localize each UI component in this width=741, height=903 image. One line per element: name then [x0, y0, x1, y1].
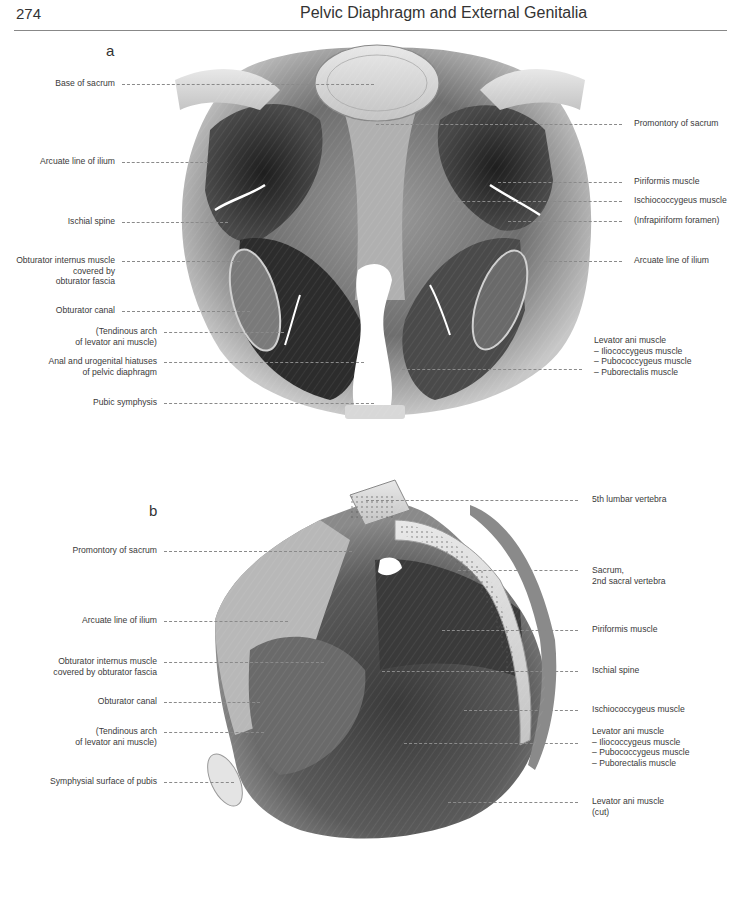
- leader-line: [382, 671, 578, 672]
- leader-line: [164, 362, 364, 363]
- figure-b-letter: b: [149, 502, 157, 519]
- leader-line: [122, 261, 240, 262]
- leader-line: [164, 403, 374, 404]
- label-obturator-internus-b: Obturator internus muscle covered by obt…: [53, 656, 157, 677]
- label-arcuate-line-of-ilium-a-right: Arcuate line of ilium: [634, 255, 709, 266]
- leader-line: [376, 124, 622, 125]
- leader-line: [164, 621, 288, 622]
- label-promontory-of-sacrum-a: Promontory of sacrum: [634, 118, 719, 129]
- label-tendinous-arch-a: (Tendinous arch of levator ani muscle): [75, 326, 157, 347]
- leader-line: [164, 332, 284, 333]
- label-pubic-symphysis: Pubic symphysis: [93, 397, 157, 408]
- leader-line: [164, 732, 264, 733]
- leader-line: [458, 570, 578, 571]
- leader-line: [122, 222, 228, 223]
- leader-line: [164, 782, 234, 783]
- leader-line: [122, 84, 374, 85]
- label-ischiococcygeus-b: Ischiococcygeus muscle: [592, 704, 685, 715]
- label-anal-urogenital-hiatuses: Anal and urogenital hiatuses of pelvic d…: [49, 356, 157, 377]
- label-ischial-spine-a: Ischial spine: [68, 216, 115, 227]
- label-piriformis-a: Piriformis muscle: [634, 176, 699, 187]
- label-ischiococcygeus-a: Ischiococcygeus muscle: [634, 195, 727, 206]
- leader-line: [498, 182, 622, 183]
- label-5th-lumbar-vertebra: 5th lumbar vertebra: [592, 494, 667, 505]
- label-obturator-canal-b: Obturator canal: [98, 696, 157, 707]
- figure-a-letter: a: [106, 42, 114, 59]
- leader-line: [402, 369, 582, 370]
- label-tendinous-arch-b: (Tendinous arch of levator ani muscle): [75, 726, 157, 747]
- leader-line: [122, 311, 250, 312]
- label-levator-ani-a: Levator ani muscle – Iliococcygeus muscl…: [594, 335, 691, 377]
- label-levator-ani-cut: Levator ani muscle (cut): [592, 796, 664, 817]
- leader-line: [122, 162, 208, 163]
- label-levator-ani-b: Levator ani muscle – Iliococcygeus muscl…: [592, 726, 689, 768]
- label-arcuate-line-of-ilium-b: Arcuate line of ilium: [82, 615, 157, 626]
- leader-line: [404, 743, 578, 744]
- label-piriformis-b: Piriformis muscle: [592, 624, 657, 635]
- leader-line: [464, 710, 578, 711]
- label-promontory-of-sacrum-b: Promontory of sacrum: [72, 545, 157, 556]
- label-symphysial-surface-of-pubis: Symphysial surface of pubis: [50, 776, 157, 787]
- leader-line: [164, 702, 260, 703]
- leader-line: [164, 662, 324, 663]
- label-arcuate-line-of-ilium-a-left: Arcuate line of ilium: [40, 156, 115, 167]
- label-obturator-internus-a: Obturator internus muscle covered by obt…: [16, 255, 115, 287]
- label-ischial-spine-b: Ischial spine: [592, 665, 639, 676]
- leader-line: [544, 261, 622, 262]
- figure-b-illustration: [200, 480, 556, 839]
- leader-line: [366, 500, 578, 501]
- leader-line: [508, 221, 622, 222]
- leader-line: [448, 802, 578, 803]
- leader-line: [442, 630, 578, 631]
- label-sacrum-2nd-sacral-vertebra: Sacrum, 2nd sacral vertebra: [592, 565, 666, 586]
- leader-line: [452, 201, 622, 202]
- leader-line: [164, 551, 352, 552]
- label-base-of-sacrum: Base of sacrum: [55, 78, 115, 89]
- label-infrapiriform-foramen: (Infrapiriform foramen): [634, 215, 719, 226]
- label-obturator-canal-a: Obturator canal: [56, 305, 115, 316]
